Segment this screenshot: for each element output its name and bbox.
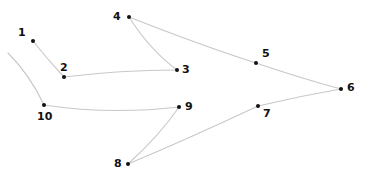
dot-7 [256, 104, 260, 108]
connecting-line [128, 89, 341, 164]
dot-number-label: 1 [18, 27, 26, 38]
connecting-line [129, 17, 177, 70]
drawn-lines [0, 0, 370, 180]
dot-4 [127, 15, 131, 19]
connect-the-dots-canvas: 12345678910 [0, 0, 370, 180]
dot-3 [175, 68, 179, 72]
dot-1 [31, 39, 35, 43]
dot-9 [177, 105, 181, 109]
dot-10 [42, 103, 46, 107]
dot-number-label: 2 [60, 62, 68, 73]
dot-8 [126, 162, 130, 166]
connecting-line [44, 105, 179, 111]
dot-number-label: 10 [37, 111, 52, 122]
dot-number-label: 5 [262, 48, 270, 59]
dot-5 [254, 61, 258, 65]
dot-number-label: 6 [347, 82, 355, 93]
connecting-line [128, 107, 179, 164]
connecting-line [64, 70, 177, 77]
connecting-line [8, 53, 44, 105]
dot-number-label: 8 [114, 158, 122, 169]
dot-number-label: 9 [185, 101, 193, 112]
dot-6 [339, 87, 343, 91]
dot-number-label: 7 [263, 108, 271, 119]
dot-number-label: 4 [113, 11, 121, 22]
connecting-line [129, 17, 341, 89]
dot-2 [62, 75, 66, 79]
dot-number-label: 3 [182, 64, 190, 75]
